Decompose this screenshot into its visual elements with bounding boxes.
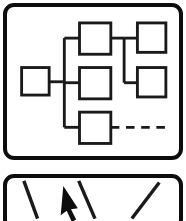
block-top-right[interactable]	[137, 23, 165, 52]
diagonal-line-3	[132, 183, 159, 219]
diagram-blocks	[22, 23, 166, 144]
pointer-lines-icon	[3, 174, 175, 221]
icon-sheet	[0, 0, 186, 221]
diagram-panel[interactable]	[3, 3, 183, 160]
mouse-pointer-icon[interactable]	[61, 186, 78, 221]
diagonal-line-2	[79, 181, 95, 219]
cursor-panel[interactable]	[3, 174, 183, 221]
flowchart-icon	[3, 3, 175, 152]
block-center[interactable]	[80, 68, 111, 99]
block-bottom[interactable]	[80, 112, 111, 143]
block-top-center[interactable]	[80, 23, 111, 54]
diagonal-lines	[24, 181, 159, 219]
block-middle-right[interactable]	[137, 68, 165, 97]
diagonal-line-1	[24, 181, 38, 219]
block-left[interactable]	[22, 68, 50, 96]
